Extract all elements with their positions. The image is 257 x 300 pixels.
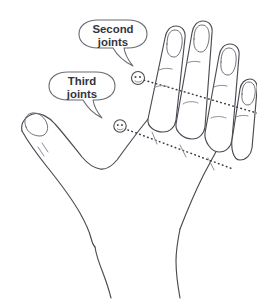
third-joints-label-line1: Third: [68, 75, 97, 87]
third-joint-crease-index: [152, 132, 157, 144]
third-joint-marker-dot-right: [121, 124, 123, 126]
third-joint-crease-middle: [180, 145, 186, 157]
callout-second-joints[interactable]: Second joints: [79, 20, 147, 66]
second-joint-marker: [132, 72, 145, 85]
second-joint-marker-dot-left: [134, 76, 136, 78]
thumb-crease-lower: [38, 147, 44, 156]
callout-third-joints[interactable]: Third joints: [49, 72, 115, 118]
second-joints-label-line1: Second: [92, 23, 133, 35]
hand-diagram: Second joints Third joints: [0, 0, 257, 300]
hand-joints-figure: Second joints Third joints: [0, 0, 257, 300]
fingers-group: [148, 21, 257, 160]
third-joints-label-line2: joints: [66, 88, 97, 100]
third-joint-marker-dot-left: [117, 124, 119, 126]
hand-body-outline: [22, 114, 148, 170]
wrist-right-contour: [176, 229, 180, 298]
second-joint-marker-dot-right: [139, 76, 141, 78]
third-joint-marker: [114, 120, 126, 132]
second-joints-label-line2: joints: [97, 36, 128, 48]
wrist-left-contour: [95, 247, 111, 298]
thumb-lower-edge: [22, 131, 95, 247]
thumb-group: [25, 113, 48, 156]
thumb-crease-upper: [42, 143, 48, 152]
hand-outline-group: [22, 114, 232, 298]
